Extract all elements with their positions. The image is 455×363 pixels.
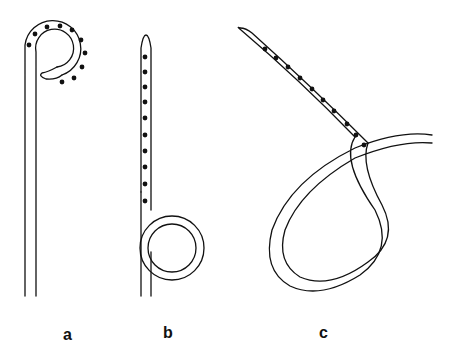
catheter-diagram: [0, 0, 455, 363]
side-hole-icon: [345, 122, 350, 127]
side-hole-icon: [79, 38, 84, 43]
side-hole-icon: [72, 76, 77, 81]
side-holes: [27, 24, 367, 204]
side-hole-icon: [80, 65, 85, 70]
catheter-b-loop-inner: [148, 224, 196, 272]
catheter-c-loop-inner: [283, 143, 432, 282]
side-hole-icon: [143, 100, 148, 105]
side-hole-icon: [70, 28, 75, 33]
side-hole-icon: [143, 165, 148, 170]
side-hole-icon: [286, 65, 291, 70]
side-hole-icon: [310, 87, 315, 92]
side-hole-icon: [60, 80, 65, 85]
side-hole-icon: [143, 70, 148, 75]
side-hole-icon: [27, 43, 32, 48]
panel-label-a: a: [63, 326, 72, 344]
catheter-a-tip: [41, 67, 62, 79]
catheter-b-loop-outer: [140, 216, 204, 280]
catheter-a: [25, 21, 81, 296]
side-hole-icon: [143, 85, 148, 90]
side-hole-icon: [58, 24, 63, 29]
catheter-a-shaft-inner: [36, 29, 74, 296]
side-hole-icon: [332, 109, 337, 114]
side-hole-icon: [263, 47, 268, 52]
side-hole-icon: [321, 98, 326, 103]
panel-label-b: b: [163, 324, 173, 342]
side-hole-icon: [33, 32, 38, 37]
side-hole-icon: [362, 143, 367, 148]
catheter-c-shaft-upper-outer: [238, 27, 355, 137]
side-hole-icon: [143, 55, 148, 60]
side-hole-icon: [83, 51, 88, 56]
side-hole-icon: [143, 182, 148, 187]
catheter-a-shaft-outer: [25, 21, 81, 296]
catheter-c: [238, 27, 432, 291]
panel-label-c: c: [319, 324, 328, 342]
side-hole-icon: [45, 25, 50, 30]
catheter-b: [140, 35, 204, 296]
side-hole-icon: [143, 133, 148, 138]
side-hole-icon: [298, 76, 303, 81]
side-hole-icon: [143, 116, 148, 121]
side-hole-icon: [143, 149, 148, 154]
side-hole-icon: [143, 199, 148, 204]
side-hole-icon: [274, 56, 279, 61]
side-hole-icon: [354, 133, 359, 138]
